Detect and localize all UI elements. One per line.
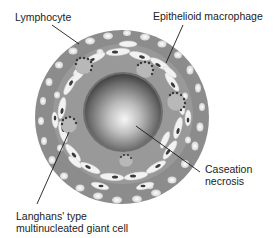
label-caseation-necrosis: Caseation necrosis <box>205 163 252 187</box>
label-lymphocyte: Lymphocyte <box>15 11 71 23</box>
label-epithelioid-macrophage: Epithelioid macrophage <box>153 10 263 22</box>
label-langhans-line1: Langhans' type <box>16 210 128 222</box>
label-langhans-line2: multinucleated giant cell <box>16 222 128 234</box>
label-langhans-giant-cell: Langhans' type multinucleated giant cell <box>16 210 128 234</box>
granuloma-diagram: Lymphocyte Epithelioid macrophage Caseat… <box>0 0 277 238</box>
leader-line-lymphocyte <box>52 25 79 44</box>
label-lymphocyte-text: Lymphocyte <box>15 11 71 23</box>
caseation-core-gradient <box>85 74 161 150</box>
granuloma-illustration <box>0 0 277 238</box>
label-caseation-line1: Caseation <box>205 163 252 175</box>
label-caseation-line2: necrosis <box>205 175 252 187</box>
label-epithelioid-text: Epithelioid macrophage <box>153 10 263 22</box>
